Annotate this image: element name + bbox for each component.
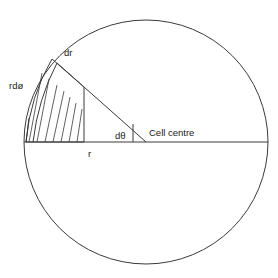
- element-dr-edge: [52, 59, 84, 87]
- arc-element-leader: [26, 118, 29, 142]
- element-hatching: [29, 73, 82, 142]
- diagram-canvas: rdø dr dθ Cell centre r: [0, 0, 278, 278]
- label-radius: r: [88, 148, 91, 159]
- label-cell-centre: Cell centre: [149, 127, 194, 138]
- label-radial-element: dr: [64, 47, 72, 58]
- label-angle-element: dθ: [115, 130, 126, 141]
- label-arc-element: rdø: [9, 80, 23, 91]
- cell-polar-element-diagram: rdø dr dθ Cell centre r: [0, 0, 278, 278]
